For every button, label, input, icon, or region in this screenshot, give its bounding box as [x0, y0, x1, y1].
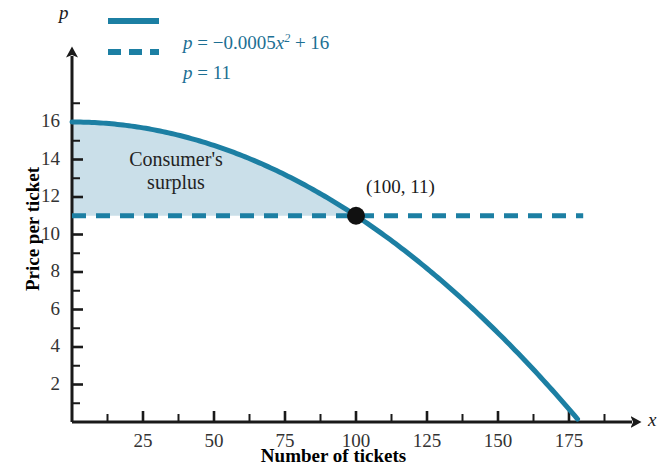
legend-lhs-2: p: [183, 62, 193, 83]
consumer-surplus-label-line1: Consumer's: [96, 148, 256, 171]
equilibrium-point-marker: [347, 207, 365, 225]
y-tick-label: 4: [20, 335, 60, 357]
y-axis-variable-label: p: [59, 2, 69, 24]
y-tick-label: 2: [20, 373, 60, 395]
x-tick-label: 75: [255, 430, 315, 452]
consumer-surplus-label-line2: surplus: [96, 171, 256, 194]
y-tick-label: 10: [20, 223, 60, 245]
chart-plot-area: [0, 0, 667, 473]
y-tick-label: 16: [20, 110, 60, 132]
x-axis-ticks: [108, 411, 605, 422]
legend-rhs-var-1: x: [276, 32, 284, 53]
equilibrium-point-label: (100, 11): [366, 176, 435, 198]
x-tick-label: 175: [539, 430, 599, 452]
chart-figure: p = −0.0005x2 + 16 p = 11 p x Price per …: [0, 0, 667, 473]
x-tick-label: 150: [468, 430, 528, 452]
consumer-surplus-label: Consumer's surplus: [96, 148, 256, 194]
x-tick-label: 125: [397, 430, 457, 452]
y-tick-label: 12: [20, 185, 60, 207]
legend-rhs-post-1: + 16: [290, 32, 329, 53]
y-tick-label: 6: [20, 298, 60, 320]
legend-rhs-pre-2: 11: [213, 62, 231, 83]
x-tick-label: 50: [184, 430, 244, 452]
legend-entry-price-line: p = 11: [164, 40, 231, 106]
x-axis-variable-label: x: [648, 409, 656, 431]
x-tick-label: 100: [326, 430, 386, 452]
x-tick-label: 25: [113, 430, 173, 452]
y-tick-label: 8: [20, 260, 60, 282]
y-tick-label: 14: [20, 148, 60, 170]
legend-eq-2: =: [193, 62, 213, 83]
